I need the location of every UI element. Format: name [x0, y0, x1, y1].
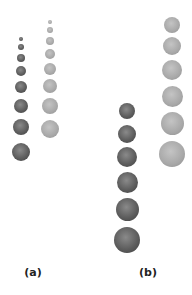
- sphere-light-panel-a: [48, 20, 52, 24]
- sphere-light-panel-b: [163, 37, 181, 55]
- sphere-light-panel-b: [161, 112, 184, 135]
- sphere-dark-panel-a: [15, 81, 27, 93]
- sphere-dark-panel-b: [117, 147, 137, 167]
- sphere-dark-panel-b: [119, 103, 135, 119]
- sphere-dark-panel-a: [19, 37, 23, 41]
- sphere-dark-panel-b: [116, 198, 139, 221]
- sphere-dark-panel-a: [13, 119, 29, 135]
- sphere-dark-panel-b: [117, 172, 138, 193]
- sphere-light-panel-a: [46, 37, 54, 45]
- sphere-light-panel-b: [164, 17, 180, 33]
- sphere-dark-panel-a: [12, 143, 30, 161]
- panel-label-a: (a): [24, 266, 41, 279]
- sphere-light-panel-b: [162, 86, 183, 107]
- sphere-dark-panel-a: [17, 54, 25, 62]
- sphere-light-panel-b: [162, 60, 182, 80]
- sphere-light-panel-b: [159, 141, 185, 167]
- sphere-light-panel-a: [43, 79, 57, 93]
- panel-label-b: (b): [139, 266, 157, 279]
- sphere-dark-panel-a: [16, 66, 26, 76]
- sphere-dark-panel-b: [114, 227, 140, 253]
- sphere-light-panel-a: [45, 49, 55, 59]
- sphere-light-panel-a: [42, 98, 58, 114]
- sphere-light-panel-a: [47, 27, 53, 33]
- sphere-dark-panel-b: [118, 125, 136, 143]
- sphere-dark-panel-a: [18, 44, 24, 50]
- sphere-light-panel-a: [41, 120, 59, 138]
- sphere-dark-panel-a: [14, 99, 28, 113]
- sphere-light-panel-a: [44, 63, 56, 75]
